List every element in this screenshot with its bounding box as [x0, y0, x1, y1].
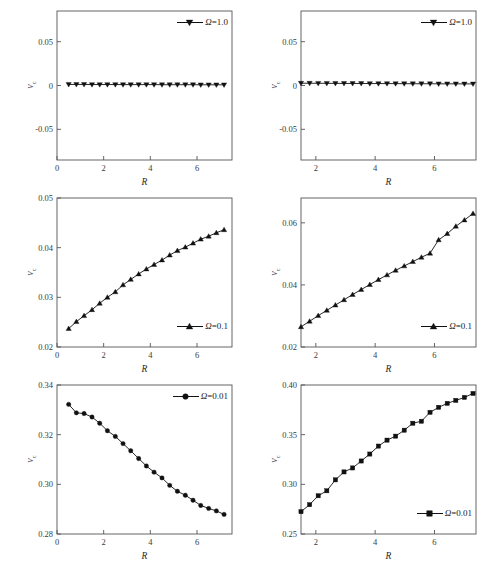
data-point-marker: [316, 313, 321, 317]
x-axis-title: R: [141, 177, 148, 187]
y-tick-label: 0.35: [282, 430, 297, 440]
data-point-marker: [471, 391, 475, 395]
y-tick-label: 0.28: [38, 529, 53, 539]
data-point-marker: [350, 292, 355, 296]
data-point-marker: [307, 319, 312, 323]
data-point-marker: [105, 429, 109, 433]
y-axis-title-main: v: [25, 271, 35, 275]
data-point-marker: [402, 428, 406, 432]
data-point-marker: [168, 483, 172, 487]
data-point-marker: [113, 434, 117, 438]
chart-panel-middle-right: 2460.020.040.06RvcΩ=0.1: [244, 187, 488, 374]
data-point-marker: [183, 493, 187, 497]
series-line: [301, 393, 473, 511]
y-axis-title: vc: [25, 64, 37, 104]
x-tick-label: 2: [314, 350, 318, 360]
x-axis-title: R: [141, 364, 148, 374]
data-point-marker: [105, 295, 110, 299]
data-point-marker: [384, 272, 389, 276]
data-point-marker: [324, 308, 329, 312]
data-point-marker: [376, 444, 380, 448]
y-tick-label: 0.04: [282, 280, 298, 290]
y-tick-label: 0.34: [38, 380, 54, 390]
data-point-marker: [144, 266, 149, 270]
data-point-marker: [419, 255, 424, 259]
chart-panel-top-left: 0246-0.0500.05RvcΩ=1.0: [0, 0, 244, 187]
x-tick-label: 6: [195, 163, 199, 173]
data-point-marker: [74, 411, 78, 415]
data-point-marker: [351, 466, 355, 470]
y-tick-label: 0.40: [282, 380, 297, 390]
y-tick-label: 0.05: [38, 37, 53, 47]
legend-line-swatch: [177, 22, 203, 23]
data-point-marker: [427, 251, 432, 255]
x-tick-label: 6: [195, 537, 199, 547]
y-tick-label: -0.05: [35, 124, 53, 134]
y-axis-title-sub: c: [274, 455, 281, 458]
chart-panel-bottom-right: 2460.250.300.350.40RvcΩ=0.01: [244, 374, 488, 561]
y-tick-label: 0.02: [38, 342, 53, 352]
x-tick-label: 0: [55, 350, 59, 360]
legend-line-swatch: [421, 22, 447, 23]
data-point-marker: [394, 434, 398, 438]
y-axis-title-main: v: [269, 458, 279, 462]
data-point-marker: [144, 464, 148, 468]
data-point-marker: [90, 415, 94, 419]
legend-line-swatch: [177, 326, 203, 327]
data-point-marker: [333, 302, 338, 306]
data-point-marker: [410, 259, 415, 263]
series-line: [69, 230, 224, 329]
legend-label: Ω=1.0: [449, 17, 472, 27]
y-axis-title-main: v: [25, 458, 35, 462]
y-tick-label: 0.30: [282, 479, 297, 489]
x-tick-label: 6: [432, 350, 436, 360]
legend-label: Ω=1.0: [205, 17, 228, 27]
y-tick-label: 0: [49, 81, 53, 91]
data-point-marker: [445, 401, 449, 405]
y-axis-title: vc: [269, 251, 281, 291]
x-tick-label: 6: [432, 163, 436, 173]
data-point-marker: [393, 268, 398, 272]
data-point-marker: [428, 410, 432, 414]
data-point-marker: [120, 282, 125, 286]
data-point-marker: [368, 452, 372, 456]
y-tick-label: 0.05: [282, 37, 297, 47]
legend-middle-right: Ω=0.1: [421, 321, 472, 331]
legend-label: Ω=0.01: [201, 391, 228, 401]
data-point-marker: [191, 498, 195, 502]
legend-label: Ω=0.01: [445, 508, 472, 518]
data-point-marker: [342, 470, 346, 474]
x-tick-label: 4: [148, 537, 153, 547]
data-point-marker: [402, 263, 407, 267]
data-point-marker: [308, 503, 312, 507]
legend-line-swatch: [173, 396, 199, 397]
legend-marker-triangle-down-icon: [430, 19, 437, 26]
x-tick-label: 2: [102, 537, 106, 547]
data-point-marker: [385, 438, 389, 442]
legend-top-left: Ω=1.0: [177, 17, 228, 27]
y-tick-label: 0.32: [38, 430, 53, 440]
data-point-marker: [221, 227, 226, 231]
figure-panel-grid: 0246-0.0500.05RvcΩ=1.0246-0.0500.05RvcΩ=…: [0, 0, 488, 562]
data-point-marker: [298, 324, 303, 328]
data-point-marker: [214, 509, 218, 513]
x-tick-label: 2: [102, 350, 106, 360]
data-point-marker: [183, 245, 188, 249]
y-tick-label: 0.05: [38, 193, 53, 203]
data-point-marker: [66, 402, 70, 406]
x-tick-label: 0: [55, 163, 59, 173]
x-tick-label: 4: [373, 163, 378, 173]
y-axis-title-sub: c: [274, 268, 281, 271]
y-axis-title: vc: [25, 438, 37, 478]
data-point-marker: [316, 494, 320, 498]
data-point-marker: [453, 224, 458, 228]
y-axis-title-sub: c: [30, 455, 37, 458]
y-axis-title-main: v: [269, 84, 279, 88]
y-axis-title: vc: [25, 251, 37, 291]
data-point-marker: [454, 398, 458, 402]
legend-marker-triangle-down-icon: [186, 19, 193, 26]
x-tick-label: 6: [195, 350, 199, 360]
data-point-marker: [128, 277, 133, 281]
y-axis-title-sub: c: [30, 81, 37, 84]
data-point-marker: [437, 405, 441, 409]
